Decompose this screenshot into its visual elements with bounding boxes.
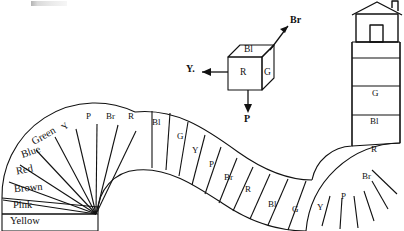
track-segment-br-1: Br — [106, 112, 115, 121]
track-segment-r-2: R — [245, 185, 251, 194]
track-segment-y-2: Y — [192, 146, 199, 155]
track-segment-br-3: Br — [362, 172, 371, 181]
cube-arrow-label-p: P — [244, 114, 250, 124]
track-segment-r-1: R — [128, 112, 134, 121]
track-segment-bl-3: Bl — [370, 117, 379, 126]
track-segment-g-3: G — [372, 89, 379, 98]
cube-face-front-label: R — [240, 68, 246, 78]
track-segment-bl-1: Bl — [152, 118, 161, 127]
cube-face-right-label: G — [264, 68, 271, 78]
track-segment-yellow: Yellow — [10, 216, 40, 227]
track-middle-band — [135, 111, 312, 231]
cube-arrow-label-br: Br — [290, 15, 301, 25]
figure-canvas: Yellow Pink Brown Red Blue Green Y P Br … — [0, 0, 404, 231]
track-segment-p-3: P — [341, 192, 346, 201]
track-segment-p-1: P — [86, 112, 91, 121]
track-segment-pink: Pink — [13, 200, 32, 211]
track-segment-br-2: Br — [224, 173, 233, 182]
track-segment-bl-2: Bl — [268, 200, 277, 209]
track-segment-p-2: P — [209, 160, 214, 169]
track-segment-y-3: Y — [317, 203, 324, 212]
track-segment-g-2: G — [292, 205, 299, 214]
cube-face-top-label: Bl — [244, 45, 253, 55]
track-segment-r-3: R — [371, 145, 377, 154]
house-icon — [352, 1, 402, 42]
cube-arrow-label-y: Y. — [186, 64, 195, 74]
track-segment-g-1: G — [177, 132, 184, 141]
